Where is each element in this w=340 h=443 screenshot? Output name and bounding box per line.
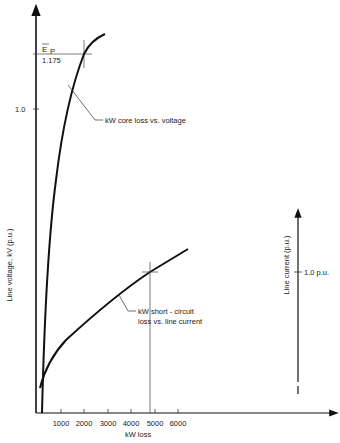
x-tick-2000: 2000: [76, 419, 93, 428]
sc-leader: [119, 295, 136, 311]
x-tick-6000: 6000: [170, 419, 187, 428]
ep-value: 1.175: [42, 56, 61, 65]
chart-canvas: 1000 2000 3000 4000 5000 6000 kW loss 1.…: [0, 0, 340, 443]
x-tick-5000: 5000: [147, 419, 164, 428]
x-tick-labels: 1000 2000 3000 4000 5000 6000: [53, 419, 187, 428]
y-axis-label: Line voltage, kV (p.u.): [5, 228, 14, 301]
x-tick-3000: 3000: [100, 419, 117, 428]
core-loss-label: kW core loss vs. voltage: [105, 116, 186, 125]
x-axis-label: kW loss: [125, 430, 152, 439]
y2-axis-label: Line current (p.u.): [282, 235, 291, 295]
y-tick-label-1: 1.0: [15, 105, 25, 114]
ep-symbol: E: [42, 45, 47, 54]
ep-subscript: P: [50, 47, 55, 56]
y2-tick-label: 1.0 p.u.: [304, 268, 329, 277]
series-core-loss-curve: [42, 34, 105, 413]
x-tick-1000: 1000: [53, 419, 70, 428]
x-tick-4000: 4000: [123, 419, 140, 428]
sc-label-line1: kW short - circuit: [138, 307, 195, 316]
sc-label-line2: loss vs. line current: [138, 317, 203, 326]
